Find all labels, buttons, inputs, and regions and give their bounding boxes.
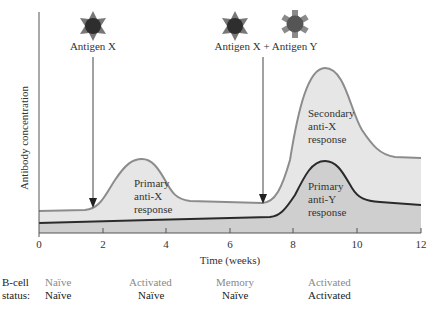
svg-text:anti-Y: anti-Y: [308, 193, 336, 205]
antigen-x-icon-2: [222, 11, 248, 41]
antigen-x-icon: [80, 11, 106, 41]
bcell-y-status-4: Activated: [308, 289, 351, 302]
svg-text:Primary: Primary: [308, 180, 344, 192]
svg-text:12: 12: [416, 238, 427, 250]
antigen-xy-label: Antigen X + Antigen Y: [215, 40, 318, 52]
svg-text:Secondary: Secondary: [308, 107, 355, 119]
bcell-status-title: B-cell status:: [2, 276, 30, 302]
svg-text:2: 2: [100, 238, 106, 250]
svg-text:response: response: [308, 206, 347, 218]
svg-text:0: 0: [36, 238, 42, 250]
svg-text:6: 6: [227, 238, 233, 250]
antigen-x-label: Antigen X: [70, 40, 116, 52]
bcell-y-status-3: Naïve: [222, 289, 248, 302]
svg-text:response: response: [308, 133, 347, 145]
svg-text:8: 8: [290, 238, 296, 250]
svg-text:anti-X: anti-X: [134, 190, 162, 202]
bcell-y-status-1: Naïve: [45, 289, 71, 302]
bcell-x-status-2: Activated: [129, 276, 172, 289]
svg-text:10: 10: [352, 238, 364, 250]
x-tick-labels: 0 2 4 6 8 10 12: [36, 238, 426, 250]
bcell-x-status-1: Naïve: [45, 276, 71, 289]
svg-text:Primary: Primary: [134, 177, 170, 189]
svg-text:response: response: [134, 203, 173, 215]
bcell-x-status-4: Activated: [308, 276, 351, 289]
antigen-y-icon: [281, 10, 308, 38]
x-axis-title: Time (weeks): [200, 254, 261, 267]
antibody-response-diagram: 0 2 4 6 8 10 12 Time (weeks) Antibody co…: [0, 0, 436, 314]
bcell-x-status-3: Memory: [216, 276, 254, 289]
bcell-y-status-2: Naïve: [138, 289, 164, 302]
svg-text:anti-X: anti-X: [308, 120, 336, 132]
y-axis-title: Antibody concentration: [18, 85, 30, 190]
svg-text:4: 4: [163, 238, 169, 250]
